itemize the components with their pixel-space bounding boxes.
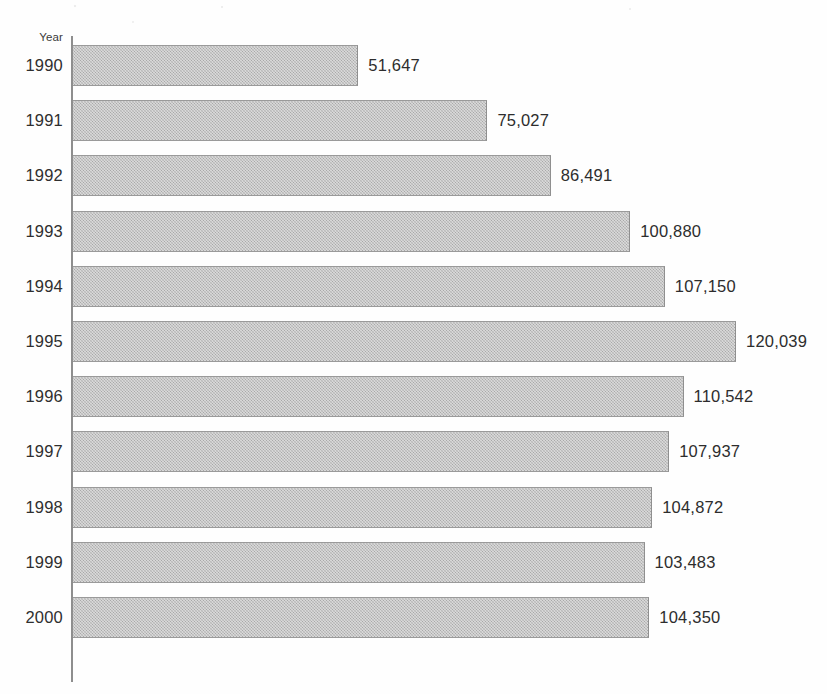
bar-1999: [73, 542, 645, 583]
bar-value-label-1992: 86,491: [561, 155, 613, 196]
bar-value-label-1996: 110,542: [694, 376, 754, 417]
bar-1995: [73, 321, 736, 362]
bar-1996: [73, 376, 684, 417]
bar-row: 199175,027: [0, 100, 827, 141]
category-label-1996: 1996: [0, 376, 63, 417]
bar-row: 1999103,483: [0, 542, 827, 583]
category-label-1997: 1997: [0, 431, 63, 472]
bar-chart: Year 199051,647199175,027199286,49119931…: [0, 0, 827, 694]
bar-1990: [73, 45, 358, 86]
bar-value-label-1999: 103,483: [655, 542, 716, 583]
category-label-1992: 1992: [0, 155, 63, 196]
bar-value-label-1997: 107,937: [679, 431, 740, 472]
bar-value-label-1990: 51,647: [368, 45, 420, 86]
category-label-1991: 1991: [0, 100, 63, 141]
bar-1993: [73, 211, 630, 252]
bar-value-label-2000: 104,350: [659, 597, 720, 638]
category-label-1993: 1993: [0, 211, 63, 252]
bar-row: 1998104,872: [0, 487, 827, 528]
bar-1994: [73, 266, 665, 307]
category-label-1994: 1994: [0, 266, 63, 307]
plot-area: Year 199051,647199175,027199286,49119931…: [0, 0, 827, 694]
bar-1991: [73, 100, 487, 141]
bar-1998: [73, 487, 652, 528]
bar-value-label-1995: 120,039: [746, 321, 807, 362]
category-label-1990: 1990: [0, 45, 63, 86]
bar-row: 199051,647: [0, 45, 827, 86]
bar-2000: [73, 597, 649, 638]
y-axis-title: Year: [39, 31, 63, 43]
bar-row: 1995120,039: [0, 321, 827, 362]
category-label-1998: 1998: [0, 487, 63, 528]
bar-row: 199286,491: [0, 155, 827, 196]
bar-row: 2000104,350: [0, 597, 827, 638]
bar-value-label-1993: 100,880: [640, 211, 701, 252]
bar-value-label-1998: 104,872: [662, 487, 723, 528]
bar-row: 1996110,542: [0, 376, 827, 417]
bar-value-label-1994: 107,150: [675, 266, 736, 307]
category-label-2000: 2000: [0, 597, 63, 638]
bar-row: 1997107,937: [0, 431, 827, 472]
bar-row: 1993100,880: [0, 211, 827, 252]
bar-1992: [73, 155, 551, 196]
category-label-1995: 1995: [0, 321, 63, 362]
category-label-1999: 1999: [0, 542, 63, 583]
bar-1997: [73, 431, 669, 472]
bar-value-label-1991: 75,027: [497, 100, 549, 141]
bar-row: 1994107,150: [0, 266, 827, 307]
